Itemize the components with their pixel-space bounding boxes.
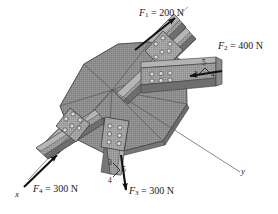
slope-vertical-F2: 3 xyxy=(194,71,198,79)
slope-horizontal-F3: 4 xyxy=(108,177,112,185)
force-subscript-F1: 1 xyxy=(145,11,149,19)
figure-canvas xyxy=(0,0,278,214)
force-equals-F1: = xyxy=(151,7,157,18)
force-label-F1: F1 = 200 N xyxy=(139,8,184,19)
force-subscript-F2: 2 xyxy=(224,44,228,52)
force-unit-F1: N xyxy=(177,7,184,18)
slope-vertical-F3: 3 xyxy=(108,159,112,167)
bolt-plate-bottom xyxy=(101,117,129,151)
force-magnitude-F3: 300 xyxy=(149,185,164,196)
force-equals-F2: = xyxy=(230,40,236,51)
slope-hypotenuse-F2: 5 xyxy=(202,59,206,67)
force-label-F4: F4 = 300 N xyxy=(33,184,78,195)
force-equals-F3: = xyxy=(141,185,147,196)
force-subscript-F3: 3 xyxy=(135,189,139,197)
axis-label-y: y xyxy=(241,167,245,176)
member-right-channel xyxy=(141,57,222,93)
force-unit-F2: N xyxy=(256,40,263,51)
force-label-F2: F2 = 400 N xyxy=(218,41,263,52)
axis-label-x: x xyxy=(15,190,19,199)
bolt-plate-bottom-face xyxy=(101,117,129,151)
slope-horizontal-F2: 4 xyxy=(211,71,215,79)
force-magnitude-F2: 400 xyxy=(238,40,253,51)
force-subscript-F4: 4 xyxy=(39,187,43,195)
force-magnitude-F1: 200 xyxy=(159,7,174,18)
force-equals-F4: = xyxy=(45,183,51,194)
mechanics-figure: F1 = 200 N F2 = 400 N 5 3 4 F3 = 300 N 3… xyxy=(0,0,278,214)
slope-hypotenuse-F3: 5 xyxy=(122,166,126,174)
force-unit-F3: N xyxy=(167,185,174,196)
force-label-F3: F3 = 300 N xyxy=(129,186,174,197)
force-unit-F4: N xyxy=(71,183,78,194)
force-magnitude-F4: 300 xyxy=(53,183,68,194)
